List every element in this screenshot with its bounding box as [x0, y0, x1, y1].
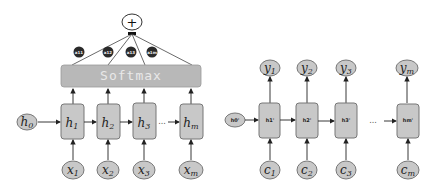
ellipsis: ...	[369, 116, 377, 125]
decoder-hidden-states: h1' h2' h3' hm'	[259, 103, 419, 138]
decoder-outputs: y1 y2 y3 ym	[260, 60, 418, 76]
svg-text:h2': h2'	[303, 117, 312, 123]
svg-text:h0': h0'	[231, 117, 240, 123]
right-decoder: y1 y2 y3 ym h0' h1' h2' h3' hm'	[225, 60, 419, 179]
svg-text:h1': h1'	[266, 117, 275, 123]
svg-text:hm': hm'	[403, 117, 414, 123]
svg-text:a11: a11	[75, 50, 83, 55]
encoder-hidden-states: h1 h2 h3 hm	[61, 103, 203, 139]
ellipsis: ...	[158, 117, 166, 126]
left-attention-encoder: + a11 a12 a13 a1m Softmax	[17, 14, 203, 179]
sum-symbol: +	[127, 15, 138, 30]
svg-text:a1m: a1m	[147, 50, 157, 55]
softmax-label: Softmax	[100, 68, 162, 83]
encoder-inputs: x1 x2 x3 xm	[62, 161, 203, 179]
svg-text:a12: a12	[104, 50, 112, 55]
diagram-canvas: + a11 a12 a13 a1m Softmax	[0, 0, 440, 193]
svg-text:a13: a13	[127, 50, 135, 55]
svg-text:h3': h3'	[342, 117, 351, 123]
decoder-inputs: c1 c2 c3 cm	[260, 161, 419, 179]
